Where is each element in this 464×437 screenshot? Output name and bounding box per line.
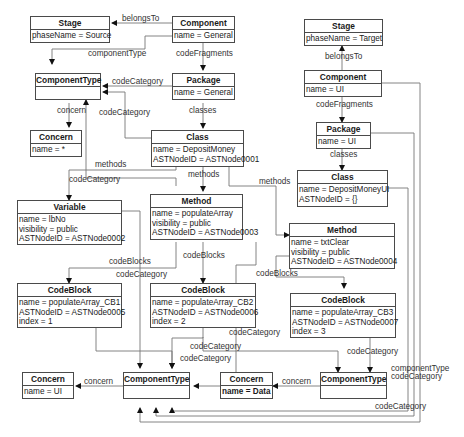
package-ui-box[interactable]: Package name = UI bbox=[316, 122, 371, 149]
package-title: Package bbox=[173, 74, 234, 87]
method-title: Method bbox=[290, 224, 394, 237]
class-title: Class bbox=[298, 171, 387, 184]
edge-label-concern: concern bbox=[57, 106, 86, 115]
component-title: Component bbox=[173, 17, 234, 30]
component-attr: name = General bbox=[174, 31, 234, 41]
class-attr-name: name = DepositMoneyUI bbox=[299, 185, 387, 195]
edge-label-codecategory: codeCategory bbox=[99, 108, 150, 117]
concern-ui-box[interactable]: Concern name = UI bbox=[22, 372, 74, 399]
edge-label-classes: classes bbox=[189, 106, 216, 115]
edge-label-codecategory: codeCategory bbox=[347, 347, 398, 356]
method-txtclear-box[interactable]: Method name = txtClear visibility = publ… bbox=[289, 223, 395, 269]
codeblock-attr-astnodeid: ASTNodeID = ASTNode0005 bbox=[19, 308, 121, 318]
codeblock-attr-index: index = 2 bbox=[152, 317, 255, 327]
edge-label-codefragments: codeFragments bbox=[176, 49, 233, 58]
edge-label-componenttype: componentType bbox=[88, 49, 146, 58]
edge-label-codeblocks: codeBlocks bbox=[183, 251, 225, 260]
codeblock-attr-name: name = populateArray_CB2 bbox=[152, 298, 255, 308]
edge-label-codefragments: codeFragments bbox=[316, 100, 373, 109]
edge-label-methods: methods bbox=[95, 160, 126, 169]
method-attr-name: name = populateArray bbox=[152, 209, 242, 219]
componenttype-data-box[interactable]: ComponentType bbox=[320, 372, 387, 399]
edge-label-codecategory: codeCategory bbox=[116, 270, 167, 279]
codeblock-title: CodeBlock bbox=[18, 284, 121, 297]
variable-title: Variable bbox=[18, 201, 121, 214]
edge-label-codecategory: codeCategory bbox=[229, 328, 280, 337]
codeblock-attr-astnodeid: ASTNodeID = ASTNode0006 bbox=[152, 308, 255, 318]
package-title: Package bbox=[317, 123, 370, 136]
component-title: Component bbox=[305, 71, 381, 84]
method-attr-astnodeid: ASTNodeID = ASTNode0004 bbox=[291, 257, 394, 267]
class-attr-name: name = DepositMoney bbox=[153, 145, 243, 155]
edge-label-codecategory: codeCategory bbox=[375, 402, 426, 411]
class-ui-box[interactable]: Class name = DepositMoneyUI ASTNodeID = … bbox=[297, 170, 388, 207]
edge-label-codecategory: codeCategory bbox=[391, 372, 442, 381]
concern-attr: name = UI bbox=[24, 387, 73, 397]
codeblock-attr-astnodeid: ASTNodeID = ASTNode0007 bbox=[292, 318, 395, 328]
edge-label-codeblocks: codeBlocks bbox=[109, 257, 151, 266]
stage-title: Stage bbox=[305, 20, 382, 33]
class-title: Class bbox=[152, 131, 243, 144]
concern-data-box[interactable]: Concern name = Data bbox=[220, 372, 273, 399]
codeblock-title: CodeBlock bbox=[151, 284, 255, 297]
edge-label-belongsto: belongsTo bbox=[122, 14, 159, 23]
package-general-box[interactable]: Package name = General bbox=[172, 73, 235, 100]
codeblock-attr-index: index = 1 bbox=[19, 317, 121, 327]
package-attr: name = UI bbox=[318, 137, 370, 147]
concern-title: Concern bbox=[221, 373, 272, 386]
codeblock-title: CodeBlock bbox=[291, 294, 395, 307]
codeblock-attr-index: index = 3 bbox=[292, 327, 395, 337]
method-attr-astnodeid: ASTNodeID = ASTNode0003 bbox=[152, 228, 242, 238]
component-general-box[interactable]: Component name = General bbox=[172, 16, 235, 43]
method-attr-visibility: visibility = public bbox=[291, 248, 394, 258]
edge-label-concern: concern bbox=[282, 377, 311, 386]
package-attr: name = General bbox=[174, 88, 234, 98]
codeblock-cb3-box[interactable]: CodeBlock name = populateArray_CB3 ASTNo… bbox=[290, 293, 396, 338]
edge-label-methods: methods bbox=[259, 177, 290, 186]
stage-target-box[interactable]: Stage phaseName = Target bbox=[304, 19, 383, 46]
variable-attr-name: name = lbNo bbox=[19, 215, 121, 225]
class-attr-astnodeid: ASTNodeID = ASTNode0001 bbox=[153, 155, 243, 165]
edge-label-belongsto: belongsTo bbox=[325, 52, 362, 61]
edge-label-concern: concern bbox=[84, 377, 113, 386]
variable-attr-astnodeid: ASTNodeID = ASTNode0002 bbox=[19, 234, 121, 244]
edge-label-methods: methods bbox=[188, 170, 219, 179]
edge-label-codecategory: codeCategory bbox=[112, 77, 163, 86]
codeblock-attr-name: name = populateArray_CB3 bbox=[292, 308, 395, 318]
edge-label-codecategory: codeCategory bbox=[190, 342, 241, 351]
method-attr-visibility: visibility = public bbox=[152, 219, 242, 229]
componenttype-title: ComponentType bbox=[321, 373, 386, 386]
concern-title: Concern bbox=[23, 373, 73, 386]
edge-label-codeblocks: codeBlocks bbox=[256, 269, 298, 278]
class-depositmoney-box[interactable]: Class name = DepositMoney ASTNodeID = AS… bbox=[151, 130, 244, 167]
component-ui-box[interactable]: Component name = UI bbox=[304, 70, 382, 97]
method-attr-name: name = txtClear bbox=[291, 238, 394, 248]
codeblock-cb2-box[interactable]: CodeBlock name = populateArray_CB2 ASTNo… bbox=[150, 283, 256, 328]
variable-box[interactable]: Variable name = lbNo visibility = public… bbox=[17, 200, 122, 245]
edge-label-codecategory: codeCategory bbox=[180, 354, 231, 363]
componenttype-top-box[interactable]: ComponentType bbox=[35, 73, 101, 100]
componenttype-title: ComponentType bbox=[124, 373, 189, 386]
stage-attr: phaseName = Source bbox=[32, 31, 109, 41]
method-populatearray-box[interactable]: Method name = populateArray visibility =… bbox=[150, 194, 243, 240]
concern-attr: name = * bbox=[32, 145, 81, 155]
codeblock-cb1-box[interactable]: CodeBlock name = populateArray_CB1 ASTNo… bbox=[17, 283, 122, 328]
variable-attr-visibility: visibility = public bbox=[19, 225, 121, 235]
component-attr: name = UI bbox=[306, 85, 381, 95]
stage-title: Stage bbox=[31, 17, 109, 30]
componenttype-ui-box[interactable]: ComponentType bbox=[123, 372, 190, 399]
stage-attr: phaseName = Target bbox=[306, 34, 382, 44]
class-attr-astnodeid: ASTNodeID = {} bbox=[299, 195, 387, 205]
stage-source-box[interactable]: Stage phaseName = Source bbox=[30, 16, 110, 43]
concern-attr: name = Data bbox=[222, 387, 272, 397]
method-title: Method bbox=[151, 195, 242, 208]
edge-label-codecategory: codeCategory bbox=[69, 175, 120, 184]
concern-star-box[interactable]: Concern name = * bbox=[30, 130, 82, 157]
codeblock-attr-name: name = populateArray_CB1 bbox=[19, 298, 121, 308]
edge-label-classes: classes bbox=[330, 150, 357, 159]
concern-title: Concern bbox=[31, 131, 81, 144]
componenttype-title: ComponentType bbox=[36, 74, 100, 87]
